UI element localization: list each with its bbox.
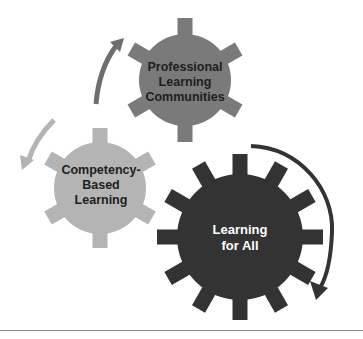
label-line: Communities: [140, 90, 230, 105]
gear-label-lfa: Learning for All: [195, 222, 285, 253]
gears-diagram: [0, 0, 363, 339]
arrow-up-icon: [96, 38, 124, 104]
gear-label-plc: Professional Learning Communities: [140, 60, 230, 105]
label-line: Learning: [195, 222, 285, 238]
divider-line: [0, 330, 363, 331]
label-line: Learning: [56, 193, 146, 208]
gear-label-cbl: Competency- Based Learning: [56, 163, 146, 208]
label-line: Professional: [140, 60, 230, 75]
label-line: Learning: [140, 75, 230, 90]
label-line: Competency-: [56, 163, 146, 178]
label-line: for All: [195, 238, 285, 254]
label-line: Based: [56, 178, 146, 193]
